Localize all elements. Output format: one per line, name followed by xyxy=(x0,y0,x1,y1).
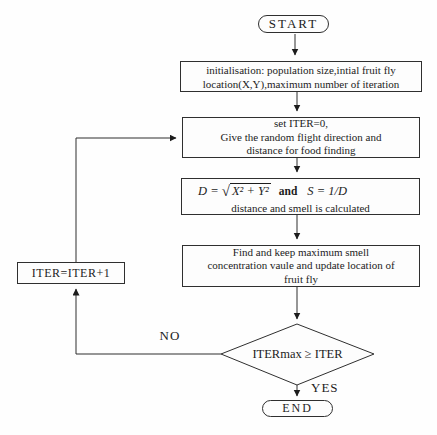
find-max-line-1: Find and keep maximum smell xyxy=(233,246,369,260)
end-terminal: END xyxy=(262,400,333,417)
iter-increment-label: ITER=ITER+1 xyxy=(32,266,110,281)
formula-lhs: D = xyxy=(198,184,222,198)
set-iter-line-2: Give the random flight direction and xyxy=(221,131,382,145)
init-line-2: location(X,Y),maximum number of iteratio… xyxy=(203,77,399,91)
find-max-process: Find and keep maximum smell concentratio… xyxy=(182,245,420,287)
start-terminal: START xyxy=(258,15,329,33)
formula-expression: D = √X² + Y²andS = 1/D xyxy=(182,180,419,200)
formula-radicand: X² + Y² xyxy=(230,183,271,198)
connector-iter-to-setiter xyxy=(76,138,176,262)
radical-sign: √ xyxy=(222,183,230,199)
edge-label-no: NO xyxy=(150,328,190,344)
decision-label: ITERmax ≥ ITER xyxy=(222,347,373,362)
end-label: END xyxy=(282,401,313,416)
edge-label-yes: YES xyxy=(311,380,351,396)
set-iter-process: set ITER=0, Give the random flight direc… xyxy=(182,117,420,158)
start-label: START xyxy=(269,16,318,32)
iter-increment-process: ITER=ITER+1 xyxy=(17,262,125,284)
formula-caption: distance and smell is calculated xyxy=(182,200,419,214)
formula-rhs: S = 1/D xyxy=(307,184,347,198)
flowchart-canvas: START initialisation: population size,in… xyxy=(0,0,437,435)
connector-no-to-iter xyxy=(76,289,221,354)
find-max-line-3: fruit fly xyxy=(284,273,318,287)
init-process: initialisation: population size,intial f… xyxy=(180,61,422,92)
find-max-line-2: concentration vaule and update location … xyxy=(207,259,394,273)
init-line-1: initialisation: population size,intial f… xyxy=(206,63,396,77)
set-iter-line-3: distance for food finding xyxy=(246,144,355,158)
set-iter-line-1: set ITER=0, xyxy=(274,117,328,131)
formula-conjunction: and xyxy=(271,185,308,197)
formula-process: D = √X² + Y²andS = 1/D distance and smel… xyxy=(181,178,420,215)
